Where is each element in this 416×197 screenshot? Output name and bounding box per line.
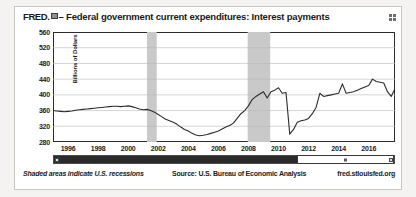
x-axis-tick-label: 1996 (61, 145, 76, 153)
y-axis-tick-label: 360 (39, 107, 50, 114)
scrollbar-handle[interactable] (297, 155, 394, 164)
scrollbar-track-fill (54, 156, 297, 163)
chart-header: FRED.– Federal government current expend… (15, 7, 403, 29)
recession-note: Shaded areas indicate U.S. recessions (23, 170, 144, 177)
expand-cell (389, 14, 392, 17)
x-axis-tick-label: 2002 (151, 145, 166, 153)
y-axis-label: Billions of Dollars (72, 28, 78, 90)
expand-cell (393, 18, 396, 21)
expand-cell (393, 14, 396, 17)
x-axis-tick-label: 2016 (361, 145, 376, 153)
title-dash: – (59, 11, 64, 22)
recession-band (248, 32, 271, 142)
chart-plot-area[interactable]: Billions of Dollars 28032036040044048052… (53, 32, 395, 142)
y-axis-tick-label: 520 (39, 44, 50, 51)
x-axis-tick-label: 2014 (331, 145, 346, 153)
chart-title-row: FRED.– Federal government current expend… (23, 11, 330, 23)
scrollbar-left-cap[interactable] (55, 158, 59, 162)
y-axis-tick-label: 440 (39, 76, 50, 83)
scrollbar-right-cap[interactable] (389, 158, 393, 162)
expand-grid-icon[interactable] (389, 14, 396, 21)
expand-cell (389, 18, 392, 21)
y-axis-tick-label: 560 (39, 29, 50, 36)
x-axis-tick-label: 2000 (121, 145, 136, 153)
page-title: Federal government current expenditures:… (66, 11, 329, 22)
x-axis-tick-label: 1998 (91, 145, 106, 153)
y-axis-tick-label: 280 (39, 139, 50, 146)
x-axis-tick-label: 2006 (211, 145, 226, 153)
fred-url-label[interactable]: fred.stlouisfed.org (337, 170, 395, 177)
x-axis-tick-label: 2012 (301, 145, 316, 153)
fred-logo-badge-icon (51, 13, 58, 19)
x-axis-tick-label: 2010 (271, 145, 286, 153)
scrollbar-handle-grip (344, 158, 347, 161)
fred-chart-card: FRED.– Federal government current expend… (14, 6, 402, 190)
chart-footer: Shaded areas indicate U.S. recessions So… (15, 169, 403, 185)
x-axis-tick-label: 2008 (241, 145, 256, 153)
data-source-label: Source: U.S. Bureau of Economic Analysis (172, 170, 306, 177)
y-axis-tick-label: 480 (39, 60, 50, 67)
y-axis-tick-label: 400 (39, 91, 50, 98)
chart-canvas (53, 32, 395, 142)
x-axis-tick-label: 2004 (181, 145, 196, 153)
recession-band (147, 32, 157, 142)
series-line-interest-payments (53, 79, 395, 136)
fred-chart-screenshot: FRED.– Federal government current expend… (0, 0, 416, 197)
time-range-scrollbar[interactable] (53, 155, 395, 164)
fred-brand-label[interactable]: FRED. (23, 11, 50, 22)
y-axis-tick-label: 320 (39, 123, 50, 130)
recession-bands-group (147, 32, 270, 142)
